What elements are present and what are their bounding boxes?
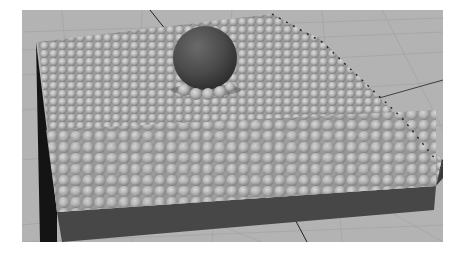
3d-viewport[interactable] [22,10,443,242]
scene-render [22,10,443,242]
